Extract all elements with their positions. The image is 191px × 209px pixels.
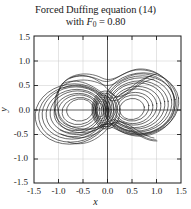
y-tick-label-6: -1.0 [6,153,28,163]
y-tick-label-1: 1.5 [8,32,30,42]
y-tick-label-4: 0.0 [8,105,30,115]
duffing-figure: Forced Duffing equation (14) with F0 = 0… [0,0,191,209]
x-tick-label-5: 0.5 [119,186,145,196]
y-tick-label-2: 1.0 [8,56,30,66]
x-tick-label-7: 1.5 [168,186,191,196]
y-axis-label: y [0,107,9,111]
y-tick-label-3: 0.5 [8,80,30,90]
attractor-trajectory [31,67,184,149]
x-tick-label-3: -0.5 [70,186,96,196]
x-axis-label: x [0,196,191,207]
x-tick-label-2: -1.0 [46,186,72,196]
x-tick-label-6: 1.0 [144,186,170,196]
y-tick-label-5: -0.5 [6,129,28,139]
x-tick-label-1: -1.5 [21,186,47,196]
x-tick-label-4: 0.0 [95,186,121,196]
